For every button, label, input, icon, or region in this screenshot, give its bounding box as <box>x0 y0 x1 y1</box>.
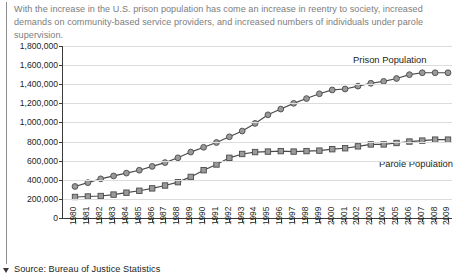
y-axis-tick <box>59 199 63 200</box>
data-point-marker <box>278 106 284 112</box>
x-axis-label: 1987 <box>158 207 168 225</box>
data-point-marker <box>432 70 438 76</box>
x-axis-label: 1985 <box>133 207 143 225</box>
x-axis-label: 1994 <box>248 207 258 225</box>
data-point-marker <box>239 128 245 134</box>
data-point-marker <box>149 164 155 170</box>
y-axis-label: 1,600,000 <box>0 60 58 70</box>
data-point-marker <box>188 149 194 155</box>
x-axis-label: 2008 <box>429 207 439 225</box>
x-axis-label: 1990 <box>197 207 207 225</box>
x-axis-label: 1999 <box>313 207 323 225</box>
gridline <box>63 65 452 66</box>
y-axis-label: 400,000 <box>0 175 58 185</box>
data-point-marker <box>137 188 142 193</box>
data-point-marker <box>445 70 451 76</box>
x-axis-label: 2006 <box>403 207 413 225</box>
gridline <box>63 122 452 123</box>
data-point-marker <box>162 183 167 188</box>
figure-caption: With the increase in the U.S. prison pop… <box>14 3 446 43</box>
x-axis-label: 2001 <box>339 207 349 225</box>
x-axis-label: 2004 <box>377 207 387 225</box>
x-axis-label: 2005 <box>390 207 400 225</box>
x-axis-label: 1997 <box>287 207 297 225</box>
data-point-marker <box>342 86 348 92</box>
y-axis-label: 1,200,000 <box>0 98 58 108</box>
y-axis-tick <box>59 142 63 143</box>
data-point-marker <box>291 149 296 154</box>
y-axis-tick <box>59 65 63 66</box>
y-axis-tick <box>59 218 63 219</box>
data-point-marker <box>317 148 322 153</box>
data-point-marker <box>124 190 129 195</box>
data-point-marker <box>252 149 257 154</box>
x-axis-label: 1991 <box>210 207 220 225</box>
plot-area: Prison Population Parole Population 1,80… <box>62 46 452 219</box>
data-point-marker <box>201 144 207 150</box>
source-note: Source: Bureau of Justice Statistics <box>14 264 160 274</box>
x-axis-label: 2003 <box>364 207 374 225</box>
y-axis-tick <box>59 180 63 181</box>
x-axis-label: 1988 <box>171 207 181 225</box>
gridline <box>63 180 452 181</box>
gridline <box>63 199 452 200</box>
data-point-marker <box>240 151 245 156</box>
data-point-marker <box>419 70 425 76</box>
x-axis-label: 1993 <box>236 207 246 225</box>
x-axis-label: 1996 <box>274 207 284 225</box>
data-point-marker <box>201 168 206 173</box>
source-arrow-icon <box>3 268 9 273</box>
gridline <box>63 103 452 104</box>
x-axis-label: 2002 <box>351 207 361 225</box>
x-axis-label: 1986 <box>146 207 156 225</box>
x-axis-label: 1998 <box>300 207 310 225</box>
data-point-marker <box>304 148 309 153</box>
y-axis-label: 1,000,000 <box>0 117 58 127</box>
gridline <box>63 84 452 85</box>
data-point-marker <box>265 112 271 118</box>
data-point-marker <box>304 96 310 102</box>
data-point-marker <box>149 186 154 191</box>
data-point-marker <box>72 184 78 190</box>
x-axis-label: 1980 <box>68 207 78 225</box>
data-point-marker <box>111 173 117 179</box>
data-point-marker <box>330 147 335 152</box>
y-axis-tick <box>59 46 63 47</box>
x-axis-label: 2007 <box>416 207 426 225</box>
y-axis-label: 1,400,000 <box>0 79 58 89</box>
data-point-marker <box>111 192 116 197</box>
gridline <box>63 46 452 47</box>
data-point-marker <box>329 87 335 93</box>
data-point-marker <box>226 134 232 140</box>
y-axis-label: 600,000 <box>0 156 58 166</box>
y-axis-label: 200,000 <box>0 194 58 204</box>
gridline <box>63 161 452 162</box>
data-point-marker <box>136 167 142 173</box>
y-axis-tick <box>59 161 63 162</box>
y-axis-label: 0 <box>0 213 58 223</box>
x-axis-label: 2009 <box>441 207 451 225</box>
y-axis-tick <box>59 84 63 85</box>
y-axis-tick <box>59 103 63 104</box>
data-point-marker <box>124 170 130 176</box>
chart-container: Prison Population Parole Population 1,80… <box>0 40 452 255</box>
data-point-marker <box>407 72 413 78</box>
series-label-prison: Prison Population <box>353 54 427 65</box>
data-point-marker <box>394 76 400 82</box>
x-axis-label: 1989 <box>184 207 194 225</box>
x-axis-label: 1981 <box>81 207 91 225</box>
data-point-marker <box>355 144 360 149</box>
data-point-marker <box>342 146 347 151</box>
data-point-marker <box>265 149 270 154</box>
x-axis-label: 1982 <box>94 207 104 225</box>
x-axis-label: 1992 <box>223 207 233 225</box>
x-axis-label: 1984 <box>120 207 130 225</box>
y-axis-tick <box>59 122 63 123</box>
series-line-prison <box>75 73 448 187</box>
series-label-parole: Parole Population <box>379 158 453 169</box>
gridline <box>63 142 452 143</box>
data-point-marker <box>278 148 283 153</box>
x-axis-label: 1983 <box>107 207 117 225</box>
x-axis-label: 1995 <box>261 207 271 225</box>
